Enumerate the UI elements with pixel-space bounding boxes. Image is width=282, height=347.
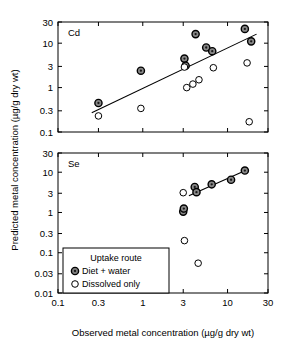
data-point-dissolved-only [196,76,203,83]
data-point-dissolved-only [181,64,188,71]
data-point-center [194,33,196,35]
y-tick-label: 0.3 [40,228,53,239]
y-tick-label: 0.3 [40,105,53,116]
y-tick-label: 30 [42,148,53,159]
data-point-center [244,28,246,30]
data-point-center [211,183,213,185]
y-axis-label: Predicted metal concentration (µg/g dry … [9,69,20,250]
y-tick-label: 0.1 [40,127,53,138]
y-tick-label: 3 [48,61,53,72]
data-point-dissolved-only [244,60,251,67]
x-tick-label: 1 [140,297,145,308]
legend-title: Uptake route [90,253,142,263]
x-tick-label: 10 [222,297,233,308]
y-tick-label: 0.03 [35,268,54,279]
data-point-dissolved-only [246,118,253,125]
data-point-dissolved-only [95,113,102,120]
y-tick-label: 0.01 [35,288,54,299]
legend-marker-dissolved-only [72,281,79,288]
figure-root: 0.10.3131030Cd0.010.030.10.31310300.10.3… [0,0,282,347]
data-point-center [97,102,99,104]
data-point-center [250,40,252,42]
data-point-center [211,50,213,52]
data-point-dissolved-only [210,64,217,71]
legend: Uptake routeDiet + waterDissolved only [63,248,169,293]
regression-line [92,34,257,113]
x-tick-label: 3 [181,297,186,308]
y-tick-label: 0.1 [40,247,53,258]
legend-label: Dissolved only [82,279,141,289]
x-tick-label: 0.1 [51,297,64,308]
x-axis-label: Observed metal concentration (µg/g dry w… [72,327,254,338]
y-tick-label: 30 [42,17,53,28]
data-point-dissolved-only [138,105,145,112]
data-point-dissolved-only [181,237,188,244]
legend-marker-center [74,270,76,272]
data-point-dissolved-only [195,260,202,267]
data-point-center [205,46,207,48]
y-tick-label: 1 [48,82,53,93]
data-point-center [244,169,246,171]
panel-frame [58,22,268,132]
data-point-center [194,186,196,188]
panel-title-se: Se [68,158,80,169]
data-point-center [230,179,232,181]
data-point-center [183,57,185,59]
data-point-center [183,207,185,209]
panel-title-cd: Cd [68,27,80,38]
data-point-center [140,70,142,72]
data-point-dissolved-only [180,189,187,196]
scatter-figure: 0.10.3131030Cd0.010.030.10.31310300.10.3… [0,0,282,347]
y-tick-label: 3 [48,188,53,199]
data-point-dissolved-only [190,81,197,88]
x-tick-label: 0.3 [92,297,105,308]
data-point-center [195,191,197,193]
panel-cd: 0.10.3131030Cd [40,17,268,138]
y-tick-label: 1 [48,207,53,218]
y-tick-label: 10 [42,167,53,178]
y-tick-label: 10 [42,38,53,49]
legend-label: Diet + water [82,266,130,276]
x-tick-label: 30 [263,297,274,308]
data-point-dissolved-only [183,84,190,91]
